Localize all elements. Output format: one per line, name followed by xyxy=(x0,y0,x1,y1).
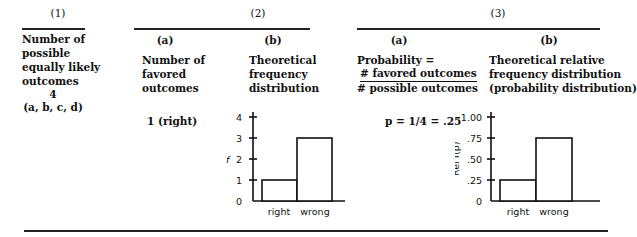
col1-detail: (a, b, c, d) xyxy=(18,101,88,114)
ytick-1.00: 1.00 xyxy=(461,112,482,123)
y-axis-label: Rel f(p) xyxy=(455,142,461,176)
col2a-label: (a) xyxy=(145,34,185,47)
col3a-value: p = 1/4 = .25 xyxy=(385,115,461,128)
xtick-wrong: wrong xyxy=(539,206,568,217)
col1-header: (1) xyxy=(30,7,86,20)
y-axis-label: f xyxy=(226,154,231,165)
col3b-title-3: (probability distribution) xyxy=(489,82,637,95)
bar-right xyxy=(500,180,536,201)
col2b-title-3: distribution xyxy=(249,82,319,95)
ytick-0: 0 xyxy=(236,196,242,207)
col3a-label: (a) xyxy=(379,34,419,47)
col1-title-4: outcomes xyxy=(22,75,79,88)
col1-rule xyxy=(22,28,85,30)
col1-value: 4 xyxy=(22,88,84,101)
col2a-title-2: favored xyxy=(142,68,186,81)
col2b-label: (b) xyxy=(253,34,293,47)
col3a-denominator: # possible outcomes xyxy=(357,82,478,95)
col1-title-1: Number of xyxy=(22,33,85,46)
ytick-2: 2 xyxy=(236,154,242,165)
col2-header: (2) xyxy=(238,7,278,20)
col1-title-3: equally likely xyxy=(22,61,100,74)
ytick-0: 0 xyxy=(476,196,482,207)
col3a-numerator: # favored outcomes xyxy=(360,67,477,82)
ytick-.75: .75 xyxy=(467,133,482,144)
col3-header: (3) xyxy=(478,7,518,20)
ytick-4: 4 xyxy=(236,112,242,123)
bar-wrong xyxy=(297,138,332,201)
xtick-wrong: wrong xyxy=(300,206,329,217)
col2a-title-3: outcomes xyxy=(142,82,199,95)
bottom-rule xyxy=(24,230,608,232)
bar-right xyxy=(262,180,297,201)
col2a-title-1: Number of xyxy=(142,54,205,67)
col1-title-2: possible xyxy=(22,47,70,60)
xtick-right: right xyxy=(268,206,291,217)
xtick-right: right xyxy=(507,206,530,217)
col3b-label: (b) xyxy=(529,34,569,47)
col2-rule xyxy=(134,28,310,30)
probability-chart: 1.00 .75 .50 .25 0 Rel f(p) right wrong xyxy=(455,108,605,218)
frequency-chart: 4 3 2 1 0 f right wrong xyxy=(220,108,360,218)
ytick-1: 1 xyxy=(236,175,242,186)
col2b-title-1: Theoretical xyxy=(249,54,316,67)
col3b-title-1: Theoretical relative xyxy=(489,54,605,67)
ytick-.50: .50 xyxy=(467,154,482,165)
ytick-.25: .25 xyxy=(467,175,482,186)
col3-rule xyxy=(357,28,600,30)
col2a-value: 1 (right) xyxy=(147,115,197,128)
bar-wrong xyxy=(536,138,572,201)
col3b-title-2: frequency distribution xyxy=(489,68,621,81)
col2b-title-2: frequency xyxy=(249,68,308,81)
ytick-3: 3 xyxy=(236,133,242,144)
col3a-title: Probability = xyxy=(357,54,434,67)
